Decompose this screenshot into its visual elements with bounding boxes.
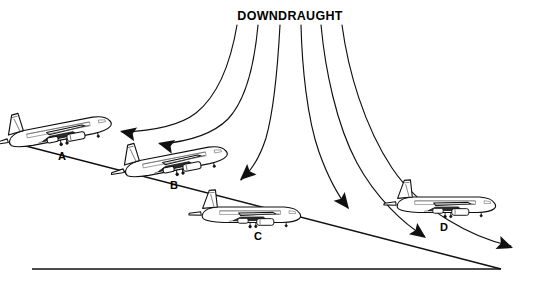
aircraft-D: D	[384, 180, 496, 233]
downdraught-curve-1	[122, 25, 237, 132]
downdraught-arrow-4	[334, 192, 355, 213]
downdraught-curve-3	[241, 25, 280, 180]
downdraught-curve-2	[160, 25, 258, 144]
aircraft-D-silhouette	[384, 180, 496, 218]
downdraught-diagram: DOWNDRAUGHT A B	[0, 0, 533, 282]
aircraft-C-label: C	[254, 230, 262, 242]
downdraught-arrow-6	[496, 236, 516, 255]
diagram-canvas: DOWNDRAUGHT A B	[0, 0, 533, 282]
aircraft-A-silhouette	[0, 96, 114, 158]
downdraught-arrow-1	[119, 124, 138, 141]
diagram-title: DOWNDRAUGHT	[237, 9, 342, 23]
aircraft-C: C	[189, 190, 301, 242]
downdraught-arrow-2	[156, 136, 175, 153]
aircraft-B-label: B	[170, 179, 178, 191]
downdraught-arrow-5	[409, 223, 430, 244]
aircraft-B: B	[106, 126, 229, 191]
aircraft-A-label: A	[58, 150, 66, 162]
downdraught-flow-group	[119, 25, 516, 255]
downdraught-arrow-3	[235, 164, 256, 185]
aircraft-A: A	[0, 96, 114, 162]
aircraft-C-silhouette	[189, 190, 301, 228]
aircraft-D-label: D	[440, 221, 448, 233]
aircraft-B-silhouette	[106, 126, 229, 188]
